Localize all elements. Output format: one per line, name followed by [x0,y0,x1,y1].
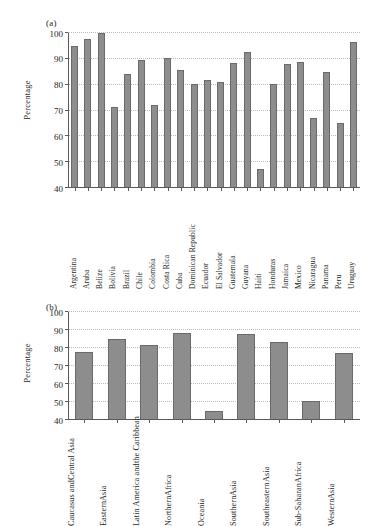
x-tick-label: Haiti [255,194,265,289]
x-tick-label: WesternAsia [328,426,360,526]
y-tick-label: 100 [50,308,64,317]
x-tick-label: Costa Rica [163,194,173,289]
panel-b-x-tick-labels: Caucasus andCentral AsiaEasternAsiaLatin… [68,422,360,522]
y-tick-label: 60 [54,380,63,389]
bar [270,342,288,420]
bar [151,105,158,188]
panel-b-y-axis [68,312,69,420]
panel-b-y-axis-title: Percentage [22,328,32,398]
x-tick-label-line: Eastern [100,501,109,526]
x-tick-label: Aruba [83,194,93,289]
bar [217,82,224,188]
x-tick-label: Argentina [70,194,80,289]
bar [270,84,277,188]
panel-a-plot-area: 405060708090100 [68,33,360,188]
bar [164,58,171,188]
bar [284,64,291,188]
x-tick-label: Mexico [295,194,305,289]
bar [108,339,126,420]
x-tick-label: Colombia [149,194,159,289]
bar [204,80,211,188]
bar [350,42,357,188]
x-tick-label: Brazil [123,194,133,289]
bar [84,39,91,188]
panel-a-x-axis [68,187,360,188]
x-tick-label: Uruguay [348,194,358,289]
x-tick-label-line: Asia [230,480,239,495]
y-tick-label: 40 [54,416,63,425]
y-tick-label: 80 [54,81,63,90]
x-tick-label-line: Africa [295,462,304,484]
bar [237,334,255,420]
x-tick-label-line: Sub-Saharan [295,483,304,526]
x-tick-label-line: Latin America and [133,463,142,526]
x-tick-label: Panama [322,194,332,289]
panel-b: (b) Percentage 405060708090100 Caucasus … [0,290,376,526]
bar [302,401,320,420]
x-tick-label: EasternAsia [100,426,132,526]
x-tick-label-line: the Caribbean [133,416,142,463]
x-tick-label: Guyana [242,194,252,289]
bar [244,52,251,188]
bar [297,62,304,188]
panel-a-x-tick-labels: ArgentinaArubaBelizeBoliviaBrazilChileCo… [68,190,360,285]
x-tick-label: El Salvador [216,194,226,289]
bar [191,84,198,188]
x-tick-label: Latin America andthe Caribbean [133,426,165,526]
y-tick-label: 70 [54,362,63,371]
x-tick-label: Honduras [269,194,279,289]
y-tick-label: 80 [54,344,63,353]
x-tick-label-line: Northern [165,496,174,526]
panel-a-y-axis-title: Percentage [22,65,32,135]
gridline [68,311,360,312]
bar [140,345,158,420]
panel-b-plot-area: 405060708090100 [68,312,360,420]
panel-a: (a) Percentage 405060708090100 Argentina… [0,0,376,290]
bar [98,33,105,188]
x-tick-label-line: Asia [100,485,109,500]
gridline [68,84,360,85]
x-tick-label: Chile [136,194,146,289]
bar [124,74,131,188]
x-tick-label: Peru [335,194,345,289]
bar [337,123,344,188]
y-tick-label: 90 [54,55,63,64]
bar [230,63,237,188]
x-tick-label: Oceania [198,426,230,526]
gridline [68,32,360,33]
bar [323,72,330,189]
x-tick-label-line: Southern [230,496,239,526]
figure: (a) Percentage 405060708090100 Argentina… [0,0,376,526]
x-tick-label: SoutheasternAsia [263,426,295,526]
y-tick-label: 100 [50,29,64,38]
x-tick-label: Cuba [176,194,186,289]
x-tick-label-line: Southeastern [263,483,272,526]
bar [177,70,184,188]
y-tick-label: 50 [54,398,63,407]
x-tick-label: Bolivia [109,194,119,289]
x-tick-label: Nicaragua [309,194,319,289]
panel-a-tag: (a) [46,18,57,28]
y-tick-label: 40 [54,184,63,193]
bar [335,353,353,420]
x-tick-label-line: Oceania [198,498,207,526]
bar [75,352,93,420]
x-tick-label: NorthernAfrica [165,426,197,526]
gridline [68,58,360,59]
bar [173,333,191,420]
gridline [68,329,360,330]
panel-a-y-axis [68,33,69,188]
y-tick-label: 50 [54,158,63,167]
bar [71,46,78,188]
x-tick-label: Guatemala [229,194,239,289]
x-tick-label: Jamaica [282,194,292,289]
bar [138,60,145,188]
x-tick-label-line: Western [328,499,337,526]
bar [111,107,118,188]
x-tick-label: Caucasus andCentral Asia [68,426,100,526]
x-tick-label-line: Caucasus and [68,480,77,526]
x-tick-label: Belize [96,194,106,289]
bar [257,169,264,188]
x-tick-label-line: Central Asia [68,438,77,480]
x-tick-label-line: Asia [328,483,337,498]
